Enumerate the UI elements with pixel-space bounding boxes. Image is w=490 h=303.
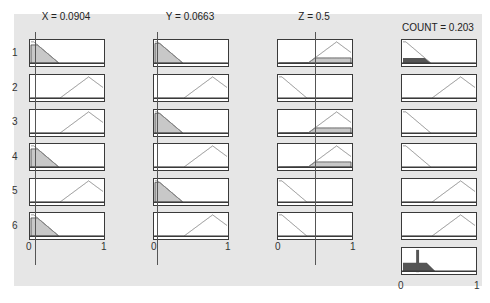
output-count-aggregate-plot[interactable] (401, 247, 477, 275)
input-y-title: Y = 0.0663 (166, 11, 214, 22)
rule-4-x-mf-plot[interactable] (29, 143, 105, 171)
rule-row-label-3: 3 (12, 116, 18, 127)
rule-1-x-mf-plot[interactable] (29, 39, 105, 67)
x-axis-max-label: 1 (101, 241, 107, 252)
rule-row-label-5: 5 (12, 185, 18, 196)
rule-row-label-4: 4 (12, 151, 18, 162)
rule-2-x-mf-plot[interactable] (29, 74, 105, 102)
rule-row-label-2: 2 (12, 82, 18, 93)
rule-6-y-mf-plot[interactable] (153, 212, 229, 240)
rule-row-label-6: 6 (12, 220, 18, 231)
rule-3-x-mf-plot[interactable] (29, 109, 105, 137)
rule-4-y-mf-plot[interactable] (153, 143, 229, 171)
z-axis-min-label: 0 (275, 241, 281, 252)
rule-5-count-mf-plot[interactable] (401, 178, 477, 206)
count-axis-min-label: 0 (398, 280, 404, 291)
rule-5-x-mf-plot[interactable] (29, 178, 105, 206)
rule-1-y-mf-plot[interactable] (153, 39, 229, 67)
rule-5-y-mf-plot[interactable] (153, 178, 229, 206)
rule-6-count-mf-plot[interactable] (401, 212, 477, 240)
rule-row-label-1: 1 (12, 47, 18, 58)
input-y-cursor-line[interactable] (157, 32, 158, 265)
input-x-title: X = 0.0904 (42, 11, 91, 22)
rule-6-x-mf-plot[interactable] (29, 212, 105, 240)
count-axis-max-label: 1 (474, 280, 480, 291)
rule-1-count-mf-plot[interactable] (401, 39, 477, 67)
input-x-cursor-line[interactable] (35, 32, 36, 265)
x-axis-min-label: 0 (26, 241, 32, 252)
output-count-title: COUNT = 0.203 (402, 22, 474, 33)
rule-3-y-mf-plot[interactable] (153, 109, 229, 137)
y-axis-max-label: 1 (225, 241, 231, 252)
y-axis-min-label: 0 (151, 241, 157, 252)
rule-2-y-mf-plot[interactable] (153, 74, 229, 102)
rule-4-count-mf-plot[interactable] (401, 143, 477, 171)
input-z-title: Z = 0.5 (298, 11, 329, 22)
input-z-cursor-line[interactable] (315, 32, 316, 265)
rule-2-count-mf-plot[interactable] (401, 74, 477, 102)
rule-3-count-mf-plot[interactable] (401, 109, 477, 137)
z-axis-max-label: 1 (350, 241, 356, 252)
